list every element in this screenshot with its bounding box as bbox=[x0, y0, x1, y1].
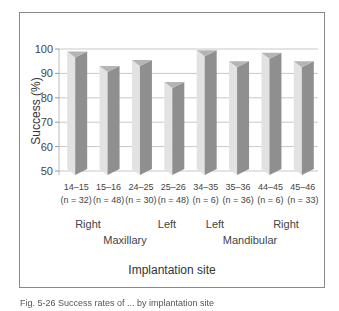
bar-front-face bbox=[197, 50, 205, 175]
x-tick-label: 44–45 bbox=[258, 182, 283, 192]
bar-side-face bbox=[75, 51, 87, 175]
bar-side-face bbox=[108, 66, 120, 175]
bar-front-face bbox=[164, 82, 172, 175]
x-tick-label: 35–36 bbox=[226, 182, 251, 192]
bar-side-face bbox=[269, 53, 281, 175]
sample-size-label: (n = 36) bbox=[222, 195, 253, 205]
bar bbox=[197, 50, 217, 175]
bar bbox=[132, 60, 152, 175]
sample-size-label: (n = 6) bbox=[193, 195, 219, 205]
jaw-label-maxillary: Maxillary bbox=[103, 234, 147, 246]
sample-size-label: (n = 48) bbox=[158, 195, 189, 205]
x-axis-label: Implantation site bbox=[128, 263, 216, 277]
bar-chart: 5060708090100 14–15(n = 32)15–16(n = 48)… bbox=[0, 0, 339, 311]
x-tick-label: 25–26 bbox=[161, 182, 186, 192]
side-label: Right bbox=[75, 218, 101, 230]
side-label: Left bbox=[158, 218, 176, 230]
sample-size-label: (n = 33) bbox=[287, 195, 318, 205]
bar-front-face bbox=[132, 60, 140, 175]
y-tick-label: 50 bbox=[41, 165, 53, 177]
bar-front-face bbox=[229, 61, 237, 175]
bar-front-face bbox=[261, 53, 269, 175]
x-tick-label: 15–16 bbox=[96, 182, 121, 192]
side-label: Right bbox=[273, 218, 299, 230]
x-tick-label: 45–46 bbox=[290, 182, 315, 192]
bar-side-face bbox=[205, 50, 217, 175]
sample-size-label: (n = 48) bbox=[93, 195, 124, 205]
bar-side-face bbox=[172, 82, 184, 175]
y-axis-label: Success (%) bbox=[29, 77, 43, 144]
jaw-label-mandibular: Mandibular bbox=[223, 234, 278, 246]
bar-front-face bbox=[67, 51, 75, 175]
y-tick-label: 100 bbox=[35, 43, 53, 55]
bar bbox=[164, 82, 184, 175]
bar-side-face bbox=[237, 61, 249, 175]
bar-side-face bbox=[302, 61, 314, 175]
bar bbox=[294, 61, 314, 175]
bar-front-face bbox=[100, 66, 108, 175]
side-label: Left bbox=[206, 218, 224, 230]
x-tick-label: 24–25 bbox=[128, 182, 153, 192]
bar bbox=[229, 61, 249, 175]
bar-side-face bbox=[140, 60, 152, 175]
sample-size-label: (n = 30) bbox=[125, 195, 156, 205]
bar-front-face bbox=[294, 61, 302, 175]
sample-size-label: (n = 32) bbox=[61, 195, 92, 205]
sample-size-label: (n = 6) bbox=[257, 195, 283, 205]
x-tick-label: 34–35 bbox=[193, 182, 218, 192]
x-tick-label: 14–15 bbox=[64, 182, 89, 192]
bar bbox=[67, 51, 87, 175]
figure-caption: Fig. 5-26 Success rates of ... by implan… bbox=[20, 298, 214, 308]
bar bbox=[100, 66, 120, 175]
bar bbox=[261, 53, 281, 175]
